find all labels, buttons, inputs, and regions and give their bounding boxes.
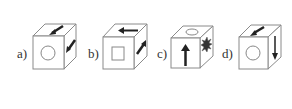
cube-d	[220, 0, 292, 109]
cube-b	[82, 0, 150, 109]
option-c[interactable]: c)	[150, 0, 220, 109]
cube-a	[0, 0, 82, 109]
option-b[interactable]: b)	[82, 0, 150, 109]
option-a[interactable]: a)	[0, 0, 82, 109]
cube-c	[150, 0, 220, 109]
option-d[interactable]: d)	[220, 0, 292, 109]
